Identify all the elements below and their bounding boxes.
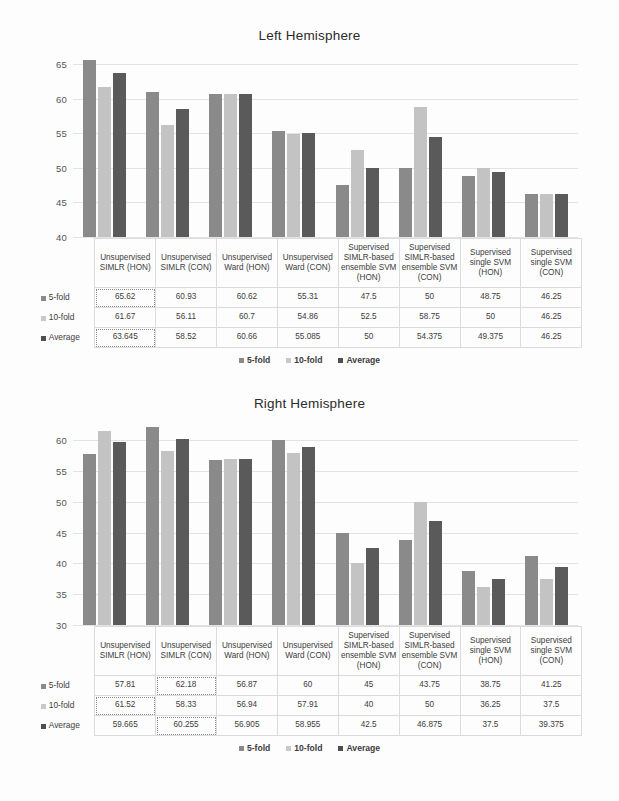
- bar: [209, 94, 222, 237]
- table-cell: 41.25: [521, 676, 582, 696]
- bar-group: [452, 57, 515, 237]
- legend-label: Average: [346, 743, 380, 753]
- bar: [477, 168, 490, 237]
- y-axis-tick-label: 35: [56, 589, 67, 600]
- bar: [83, 454, 96, 625]
- y-axis-tick-label: 50: [56, 162, 67, 173]
- bar: [462, 571, 475, 625]
- bars-container-left: [73, 57, 578, 237]
- table-cell: 36.25: [460, 696, 521, 716]
- table-cell: 42.5: [338, 716, 399, 736]
- y-axis-tick-label: 60: [56, 435, 67, 446]
- bar: [98, 431, 111, 625]
- table-row: 5-fold65.6260.9360.6255.3147.55048.7546.…: [37, 288, 582, 308]
- table-cell: 58.33: [156, 696, 217, 716]
- table-column-header: Unsupervised Ward (HON): [217, 239, 278, 288]
- grid-line: [73, 625, 578, 626]
- bar: [525, 556, 538, 625]
- bar-group: [515, 425, 578, 625]
- table-row-label-text: 10-fold: [49, 700, 75, 710]
- table-cell: 58.955: [277, 716, 338, 736]
- y-axis-tick-label: 55: [56, 466, 67, 477]
- bar: [272, 131, 285, 237]
- chart-block-right-hemisphere: Right Hemisphere 30354045505560 Unsuperv…: [0, 396, 619, 753]
- bar: [336, 185, 349, 237]
- chart-block-left-hemisphere: Left Hemisphere 404550556065 Unsupervise…: [0, 28, 619, 365]
- legend-label: Average: [346, 355, 380, 365]
- table-row: Average63.64558.5260.6655.0855054.37549.…: [37, 328, 582, 348]
- table-cell: 60.66: [217, 328, 278, 348]
- table-cell: 49.375: [460, 328, 521, 348]
- table-cell: 58.52: [156, 328, 217, 348]
- y-axis-tick-label: 45: [56, 197, 67, 208]
- bar: [176, 109, 189, 237]
- bars-container-right: [73, 425, 578, 625]
- bar: [366, 548, 379, 625]
- table-row-label: 10-fold: [37, 308, 95, 328]
- table-column-header: Unsupervised SIMLR (CON): [156, 627, 217, 676]
- bar: [525, 194, 538, 237]
- bar-group: [326, 57, 389, 237]
- legend-item-10-fold: 10-fold: [286, 355, 322, 365]
- bar-group: [452, 425, 515, 625]
- table-column-header: Unsupervised SIMLR (CON): [156, 239, 217, 288]
- series-swatch-icon: [41, 316, 46, 321]
- legend-swatch-icon: [286, 358, 291, 363]
- table-row-label: Average: [37, 716, 95, 736]
- table-row-label-text: Average: [49, 332, 80, 342]
- table-column-header: Unsupervised Ward (CON): [277, 239, 338, 288]
- bar: [366, 168, 379, 237]
- bar: [224, 459, 237, 625]
- bar: [113, 73, 126, 237]
- table-cell: 56.905: [217, 716, 278, 736]
- table-column-header: Unsupervised SIMLR (HON): [95, 627, 156, 676]
- bar: [414, 502, 427, 625]
- bar: [146, 92, 159, 237]
- table-cell: 63.645: [95, 328, 156, 348]
- table-cell: 57.81: [95, 676, 156, 696]
- figure-page: Left Hemisphere 404550556065 Unsupervise…: [0, 0, 619, 801]
- table-cell: 46.25: [521, 328, 582, 348]
- table-header-row: Unsupervised SIMLR (HON)Unsupervised SIM…: [37, 239, 582, 288]
- bar: [224, 94, 237, 237]
- legend-left: 5-fold 10-fold Average: [0, 355, 619, 365]
- bar: [176, 439, 189, 625]
- table-cell: 65.62: [95, 288, 156, 308]
- y-axis-tick-label: 55: [56, 128, 67, 139]
- bar-group: [136, 57, 199, 237]
- table-cell: 54.375: [399, 328, 460, 348]
- bar-group: [326, 425, 389, 625]
- table-cell: 56.87: [217, 676, 278, 696]
- bar: [161, 125, 174, 237]
- bar-group: [515, 57, 578, 237]
- bar: [161, 451, 174, 625]
- plot-area-left: 404550556065: [37, 57, 582, 237]
- series-swatch-icon: [41, 296, 46, 301]
- table-row: 10-fold61.6756.1160.754.8652.558.755046.…: [37, 308, 582, 328]
- y-axis-left: 404550556065: [37, 57, 71, 237]
- bar: [351, 150, 364, 237]
- grid-line: [73, 237, 578, 238]
- table-cell: 50: [460, 308, 521, 328]
- legend-label: 5-fold: [247, 743, 270, 753]
- y-axis-right: 30354045505560: [37, 425, 71, 625]
- bar-group: [73, 425, 136, 625]
- table-column-header: Unsupervised Ward (CON): [277, 627, 338, 676]
- y-axis-tick-label: 40: [56, 232, 67, 243]
- bar-group: [199, 425, 262, 625]
- legend-swatch-icon: [338, 358, 343, 363]
- bar: [336, 533, 349, 625]
- plot-area-right: 30354045505560: [37, 425, 582, 625]
- bar: [146, 427, 159, 625]
- table-column-header: Supervised single SVM (HON): [460, 239, 521, 288]
- table-cell: 47.5: [338, 288, 399, 308]
- table-cell: 61.67: [95, 308, 156, 328]
- y-axis-tick-label: 50: [56, 496, 67, 507]
- bar: [462, 176, 475, 237]
- bar: [302, 447, 315, 625]
- bar-group: [136, 425, 199, 625]
- table-cell: 45: [338, 676, 399, 696]
- bar-group: [199, 57, 262, 237]
- bar-group: [262, 57, 325, 237]
- bar: [540, 194, 553, 237]
